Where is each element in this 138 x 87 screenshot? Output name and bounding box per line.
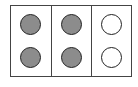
filled-counter-dot — [61, 47, 82, 68]
empty-counter-dot — [101, 47, 122, 68]
empty-counter-dot — [101, 14, 122, 35]
counting-frame — [10, 5, 132, 77]
filled-counter-dot — [61, 14, 82, 35]
frame-column-1 — [11, 6, 51, 76]
filled-counter-dot — [20, 47, 41, 68]
filled-counter-dot — [20, 14, 41, 35]
frame-column-3 — [91, 6, 132, 76]
frame-column-2 — [51, 6, 92, 76]
